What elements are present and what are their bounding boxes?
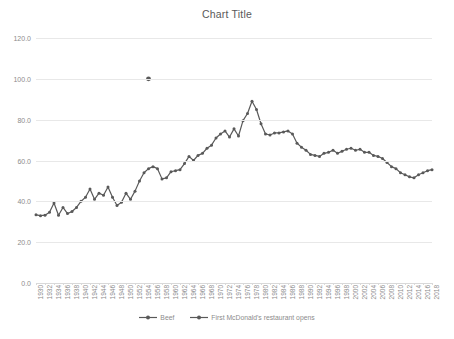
data-point [372, 154, 375, 157]
x-tick-mark [297, 283, 298, 285]
x-tick-mark [171, 283, 172, 285]
y-tick-label: 60.0 [17, 157, 31, 164]
data-point [237, 135, 240, 138]
data-point [35, 213, 38, 216]
data-point [269, 133, 272, 136]
x-tick-label: 1972 [227, 285, 234, 299]
data-point [309, 153, 312, 156]
x-tick-mark [261, 283, 262, 285]
data-point [143, 171, 146, 174]
legend-item-mcdonalds[interactable]: First McDonald's restaurant opens [190, 314, 314, 321]
x-tick-mark [117, 283, 118, 285]
x-tick-mark [198, 283, 199, 285]
x-tick-label: 1978 [254, 285, 261, 299]
x-tick-label: 1996 [335, 285, 342, 299]
x-tick-label: 1970 [218, 285, 225, 299]
x-tick-mark [99, 283, 100, 285]
data-point [327, 151, 330, 154]
y-gridline [36, 79, 432, 80]
x-tick-label: 2000 [353, 285, 360, 299]
x-tick-label: 2016 [425, 285, 432, 299]
data-point [345, 148, 348, 151]
x-tick-mark [423, 283, 424, 285]
x-tick-label: 1990 [308, 285, 315, 299]
legend-item-beef[interactable]: Beef [139, 314, 174, 321]
data-point [399, 171, 402, 174]
x-tick-label: 1934 [56, 285, 63, 299]
data-point [48, 211, 51, 214]
x-tick-label: 1998 [344, 285, 351, 299]
x-tick-mark [360, 283, 361, 285]
data-point [215, 137, 218, 140]
data-point [161, 177, 164, 180]
x-tick-label: 1986 [290, 285, 297, 299]
x-tick-label: 1936 [65, 285, 72, 299]
y-gridline [36, 161, 432, 162]
x-tick-label: 1954 [146, 285, 153, 299]
data-point [314, 154, 317, 157]
data-point [138, 179, 141, 182]
x-tick-label: 1994 [326, 285, 333, 299]
data-point [323, 152, 326, 155]
x-tick-mark [153, 283, 154, 285]
x-tick-label: 1968 [209, 285, 216, 299]
data-point [111, 196, 114, 199]
x-tick-mark [432, 283, 433, 285]
x-tick-label: 2006 [380, 285, 387, 299]
data-point [363, 151, 366, 154]
data-point [278, 131, 281, 134]
y-gridline [36, 201, 432, 202]
data-point [282, 130, 285, 133]
data-point [147, 167, 150, 170]
data-point [251, 100, 254, 103]
y-axis: 0.020.040.060.080.0100.0120.0 [0, 38, 34, 283]
y-tick-label: 40.0 [17, 198, 31, 205]
x-tick-label: 1976 [245, 285, 252, 299]
x-tick-mark [252, 283, 253, 285]
data-point [219, 132, 222, 135]
data-point [422, 171, 425, 174]
data-point [174, 169, 177, 172]
x-tick-label: 1964 [191, 285, 198, 299]
legend-label: Beef [160, 314, 174, 321]
data-point [426, 169, 429, 172]
x-tick-mark [45, 283, 46, 285]
data-point [156, 167, 159, 170]
data-point [413, 176, 416, 179]
x-tick-label: 1946 [110, 285, 117, 299]
data-point [305, 149, 308, 152]
x-tick-label: 1930 [38, 285, 45, 299]
x-tick-label: 1966 [200, 285, 207, 299]
data-point [417, 173, 420, 176]
y-gridline [36, 38, 432, 39]
x-tick-label: 1960 [173, 285, 180, 299]
data-point [395, 167, 398, 170]
data-point [84, 196, 87, 199]
x-tick-mark [414, 283, 415, 285]
data-point [62, 206, 65, 209]
data-point [408, 175, 411, 178]
x-tick-mark [225, 283, 226, 285]
x-tick-mark [108, 283, 109, 285]
x-tick-label: 1980 [263, 285, 270, 299]
data-point [228, 136, 231, 139]
data-point [291, 132, 294, 135]
y-gridline [36, 242, 432, 243]
x-tick-label: 2014 [416, 285, 423, 299]
x-tick-mark [279, 283, 280, 285]
data-point [102, 194, 105, 197]
x-tick-label: 2010 [398, 285, 405, 299]
x-tick-label: 1988 [299, 285, 306, 299]
data-point [224, 129, 227, 132]
data-point [287, 129, 290, 132]
x-tick-mark [243, 283, 244, 285]
data-point [341, 150, 344, 153]
legend-label: First McDonald's restaurant opens [211, 314, 314, 321]
x-tick-label: 1956 [155, 285, 162, 299]
data-point [300, 146, 303, 149]
x-tick-label: 1932 [47, 285, 54, 299]
x-tick-label: 1942 [92, 285, 99, 299]
x-tick-mark [36, 283, 37, 285]
x-tick-mark [180, 283, 181, 285]
x-tick-mark [126, 283, 127, 285]
